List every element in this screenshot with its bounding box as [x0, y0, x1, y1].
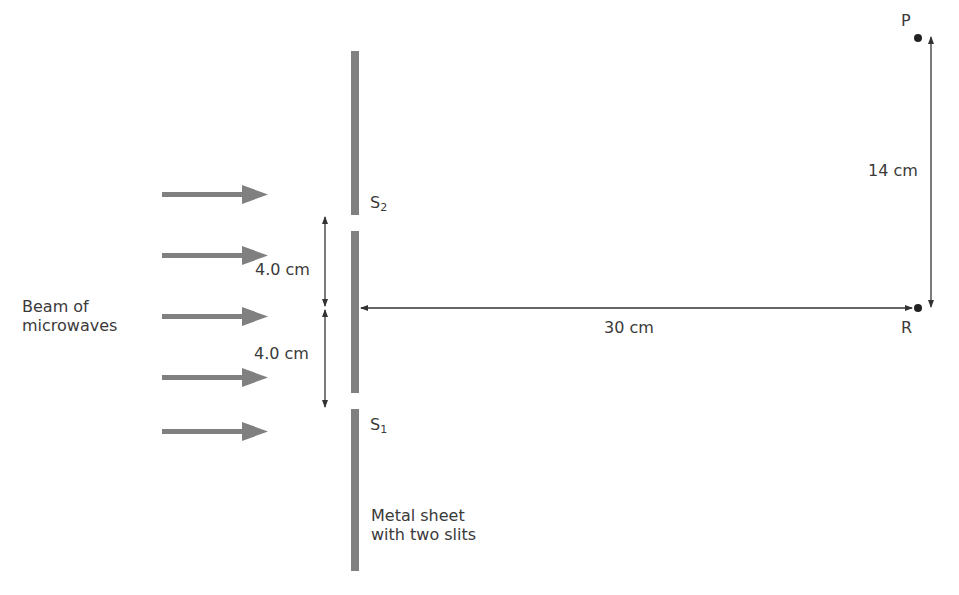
beam-label-line2: microwaves [22, 316, 117, 335]
beam-arrows [162, 185, 268, 441]
point-r-label: R [901, 318, 912, 337]
beam-arrow-icon [162, 185, 268, 204]
distance-horizontal-label: 30 cm [604, 318, 654, 337]
spacing-lower-label: 4.0 cm [254, 344, 309, 363]
sheet-label-line1: Metal sheet [371, 506, 476, 525]
point-p-dot [914, 34, 922, 42]
beam-arrow-icon [162, 307, 268, 326]
sheet-top-segment [351, 51, 359, 215]
beam-arrow-icon [162, 422, 268, 441]
beam-label: Beam of microwaves [22, 297, 117, 335]
diagram-canvas [0, 0, 959, 595]
spacing-upper-label: 4.0 cm [255, 260, 310, 279]
sheet-middle-segment [351, 231, 359, 393]
point-r-dot [914, 304, 922, 312]
sheet-bottom-segment [351, 409, 359, 571]
beam-label-line1: Beam of [22, 297, 117, 316]
sheet-label-line2: with two slits [371, 525, 476, 544]
point-p-label: P [901, 11, 911, 30]
distance-vertical-label: 14 cm [868, 161, 918, 180]
slit-s2-label: S2 [370, 193, 387, 217]
sheet-label: Metal sheet with two slits [371, 506, 476, 544]
beam-arrow-icon [162, 246, 268, 265]
slit-s1-label: S1 [370, 415, 387, 439]
beam-arrow-icon [162, 368, 268, 387]
metal-sheet [351, 51, 359, 571]
